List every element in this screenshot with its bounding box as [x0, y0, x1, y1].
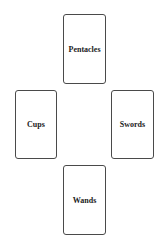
card-swords: Swords — [111, 90, 154, 159]
card-label: Pentacles — [69, 45, 101, 54]
card-label: Swords — [120, 120, 145, 129]
card-label: Wands — [73, 196, 97, 205]
card-cups: Cups — [15, 90, 57, 159]
card-wands: Wands — [63, 165, 106, 235]
card-label: Cups — [27, 120, 45, 129]
card-pentacles: Pentacles — [63, 14, 106, 84]
